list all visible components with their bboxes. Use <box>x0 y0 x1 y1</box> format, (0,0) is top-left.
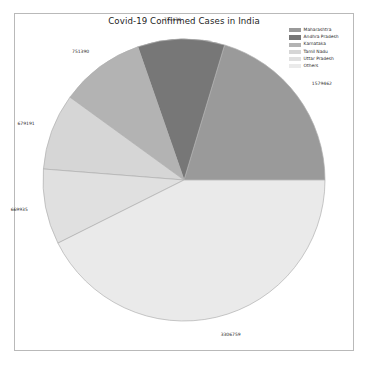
legend-item[interactable]: Andhra Pradesh <box>289 34 353 41</box>
chart-title: Covid-19 Confirmed Cases in India <box>14 16 354 26</box>
legend-item-label: Tamil Nadu <box>304 50 328 54</box>
legend-item[interactable]: Maharashtra <box>289 27 353 34</box>
chart-legend: MaharashtraAndhra PradeshKarnatakaTamil … <box>289 27 353 70</box>
pie-slice-value-label: 773470 <box>164 18 181 23</box>
legend-item-label: Maharashtra <box>304 28 332 32</box>
legend-item[interactable]: Others <box>289 63 353 70</box>
pie-chart <box>41 37 327 323</box>
legend-item-label: Uttar Pradesh <box>304 57 334 61</box>
legend-item[interactable]: Tamil Nadu <box>289 49 353 56</box>
pie-slice-value-label: 3306759 <box>221 333 241 338</box>
pie-svg <box>41 37 327 323</box>
legend-item-label: Andhra Pradesh <box>304 35 339 39</box>
legend-item-label: Others <box>304 64 319 68</box>
legend-swatch-icon <box>289 28 301 32</box>
legend-swatch-icon <box>289 64 301 68</box>
figure-canvas: Covid-19 Confirmed Cases in India 157946… <box>0 0 369 365</box>
legend-swatch-icon <box>289 35 301 39</box>
pie-slice-value-label: 669935 <box>11 208 28 213</box>
legend-swatch-icon <box>289 50 301 54</box>
pie-slice-value-label: 751390 <box>72 50 89 55</box>
pie-slice-group <box>43 39 325 321</box>
legend-swatch-icon <box>289 43 301 47</box>
legend-swatch-icon <box>289 57 301 61</box>
legend-item[interactable]: Karnataka <box>289 41 353 48</box>
legend-item[interactable]: Uttar Pradesh <box>289 56 353 63</box>
pie-slice-value-label: 679191 <box>18 122 35 127</box>
legend-item-label: Karnataka <box>304 42 326 46</box>
pie-slice-value-label: 1579462 <box>312 82 332 87</box>
